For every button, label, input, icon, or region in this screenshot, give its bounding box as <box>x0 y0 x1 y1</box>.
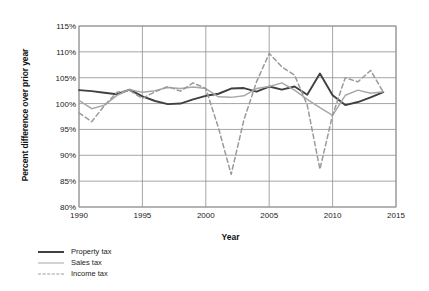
legend-item-label: Income tax <box>71 269 108 278</box>
legend-item-label: Property tax <box>71 247 111 256</box>
legend-swatch-income-icon <box>38 269 64 279</box>
chart-legend: Property taxSales taxIncome tax <box>38 246 111 279</box>
legend-item-sales[interactable]: Sales tax <box>38 257 111 268</box>
x-axis-tick-label: 1995 <box>133 211 151 220</box>
x-axis-title: Year <box>0 232 429 242</box>
legend-item-label: Sales tax <box>71 258 102 267</box>
legend-item-income[interactable]: Income tax <box>38 268 111 279</box>
x-axis-tick-label: 2000 <box>197 211 215 220</box>
legend-swatch-sales-icon <box>38 258 64 268</box>
x-axis-title-text: Year <box>222 232 240 242</box>
x-axis-tick-label: 1990 <box>70 211 88 220</box>
legend-swatch-property-icon <box>38 247 64 257</box>
x-axis-tick-label: 2015 <box>387 211 405 220</box>
x-axis-tick-label: 2005 <box>260 211 278 220</box>
legend-item-property[interactable]: Property tax <box>38 246 111 257</box>
x-axis-tick-label: 2010 <box>324 211 342 220</box>
line-chart: Percent difference over prior year 80%85… <box>0 0 429 291</box>
